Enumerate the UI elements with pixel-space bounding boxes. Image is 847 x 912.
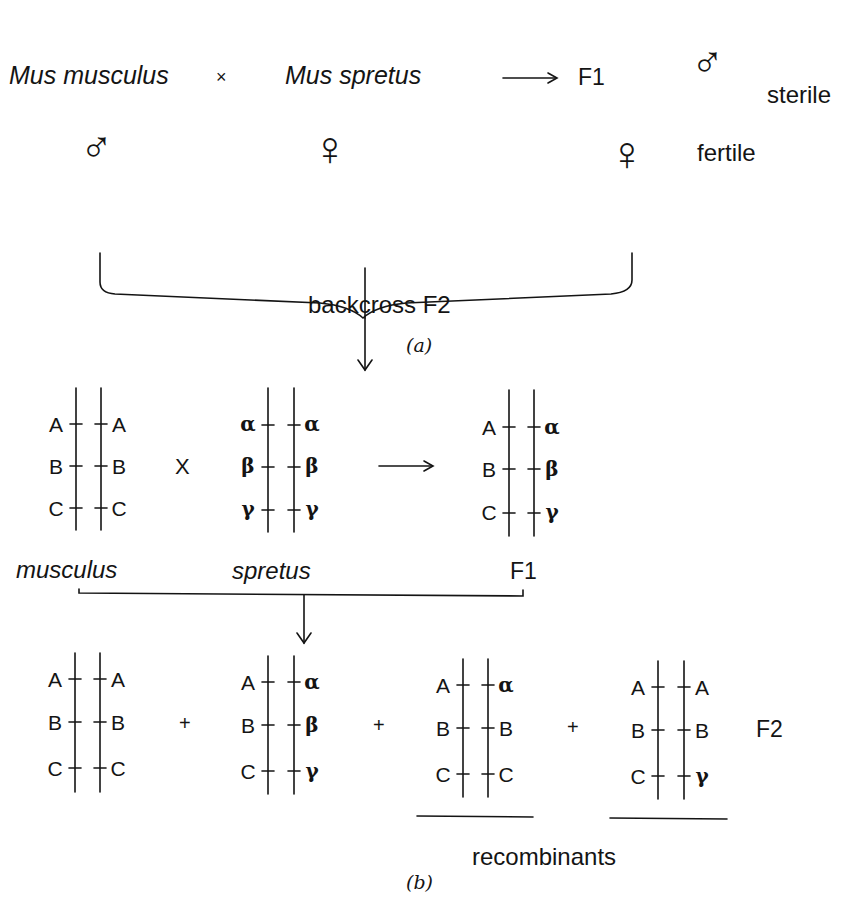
allele: B — [494, 718, 518, 739]
female-symbol-icon: ♀ — [312, 125, 348, 173]
allele: A — [431, 675, 455, 696]
cross-symbol: X — [175, 456, 190, 478]
allele: C — [236, 761, 260, 782]
f2-label: F2 — [756, 718, 783, 741]
allele: β — [300, 715, 324, 735]
allele: A — [690, 677, 714, 698]
allele: A — [626, 677, 650, 698]
allele: C — [494, 764, 518, 785]
f1-label: F1 — [510, 560, 537, 583]
allele: γ — [300, 761, 324, 781]
allele: β — [300, 456, 324, 476]
allele: γ — [236, 499, 260, 519]
chromosome-pair-spretus — [262, 388, 300, 532]
allele: A — [106, 669, 130, 690]
allele: A — [44, 414, 68, 435]
allele: γ — [300, 499, 324, 519]
allele: C — [107, 498, 131, 519]
male-symbol-icon: ♂ — [691, 40, 724, 84]
allele: β — [236, 456, 260, 476]
species-musculus-label: Mus musculus — [9, 63, 169, 88]
arrow-icon — [379, 461, 433, 471]
sterile-label: sterile — [767, 83, 831, 107]
allele: C — [626, 766, 650, 787]
chromosome-pair-f2-3 — [457, 659, 494, 797]
allele: β — [540, 459, 564, 479]
male-symbol-icon: ♂ — [80, 125, 113, 169]
bracket — [79, 589, 523, 596]
allele: A — [107, 414, 131, 435]
backcross-diagram: Mus musculus × Mus spretus F1 ♂ sterile … — [0, 0, 847, 912]
allele: γ — [540, 502, 564, 522]
chromosome-pair-f1 — [503, 390, 540, 536]
recombinant-underline-1 — [417, 816, 533, 817]
allele: α — [300, 672, 324, 692]
arrow-icon — [503, 73, 557, 83]
backcross-f2-label: backcross F2 — [308, 293, 451, 317]
allele: α — [540, 417, 564, 437]
spretus-label: spretus — [232, 559, 311, 583]
allele: B — [106, 712, 130, 733]
allele: A — [477, 417, 501, 438]
plus-symbol: + — [373, 715, 385, 735]
allele: B — [477, 459, 501, 480]
allele: C — [44, 498, 68, 519]
allele: B — [44, 456, 68, 477]
allele: α — [236, 414, 260, 434]
allele: B — [43, 712, 67, 733]
allele: γ — [690, 766, 714, 786]
female-symbol-icon: ♀ — [609, 130, 645, 178]
allele: B — [431, 718, 455, 739]
chromosome-pair-musculus — [70, 388, 107, 530]
chromosome-pair-f2-2 — [262, 656, 300, 794]
cross-symbol: × — [216, 68, 227, 86]
recombinant-underline-2 — [610, 818, 727, 819]
allele: B — [107, 456, 131, 477]
caption-a: (a) — [406, 336, 432, 355]
allele: B — [690, 720, 714, 741]
musculus-label: musculus — [16, 558, 117, 582]
caption-b: (b) — [406, 873, 433, 892]
allele: α — [494, 675, 518, 695]
species-spretus-label: Mus spretus — [285, 63, 421, 88]
allele: A — [236, 672, 260, 693]
arrow-down-icon — [297, 595, 311, 643]
allele: C — [106, 758, 130, 779]
chromosome-pair-f2-1 — [69, 653, 106, 792]
fertile-label: fertile — [697, 141, 756, 165]
chromosome-pair-f2-4 — [652, 661, 690, 799]
plus-symbol: + — [179, 713, 191, 733]
arrow-down-icon — [358, 268, 372, 370]
allele: α — [300, 414, 324, 434]
f1-label: F1 — [578, 66, 605, 89]
allele: C — [477, 502, 501, 523]
recombinants-label: recombinants — [472, 845, 616, 869]
plus-symbol: + — [567, 717, 579, 737]
allele: B — [236, 715, 260, 736]
allele: C — [43, 758, 67, 779]
allele: C — [431, 764, 455, 785]
allele: B — [626, 720, 650, 741]
allele: A — [43, 669, 67, 690]
